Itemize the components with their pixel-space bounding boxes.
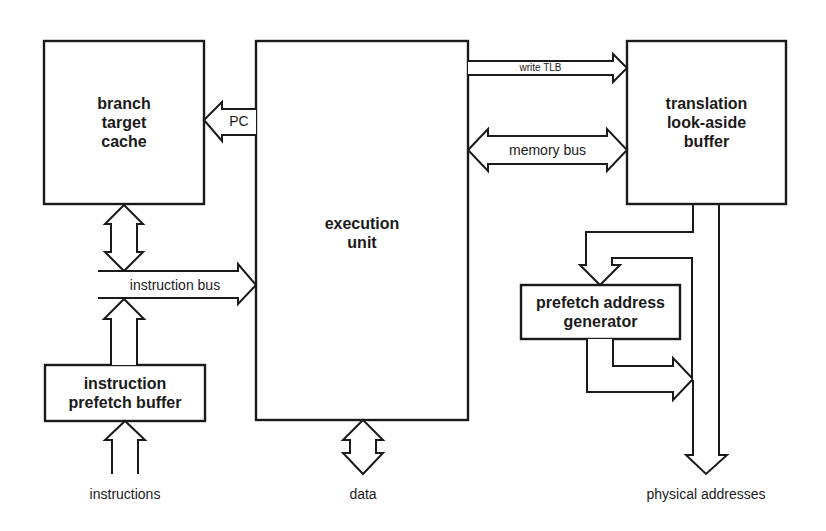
label-line: look-aside [627,113,786,132]
instructions-label: instructions [65,486,185,502]
memory-bus-label: memory bus [488,142,607,158]
execution-unit-label: execution unit [256,214,468,252]
prefetch-to-bus-arrow-icon [104,299,144,365]
prefetch-address-generator-label: prefetch address generator [521,293,680,331]
label-line: cache [44,132,204,151]
instruction-bus-label: instruction bus [112,277,238,293]
physical-addresses-label: physical addresses [616,486,796,502]
branch-target-cache-label: branch target cache [44,94,204,151]
label-line: prefetch buffer [45,393,205,412]
tlb-label: translation look-aside buffer [627,94,786,151]
label-line: translation [627,94,786,113]
label-line: prefetch address [521,293,680,312]
pc-label: PC [222,113,256,129]
label-line: target [44,113,204,132]
label-line: generator [521,312,680,331]
cache-bus-double-arrow-icon [105,205,143,271]
data-label: data [323,486,403,502]
diagram-canvas [0,0,826,531]
instructions-input-arrow-icon [105,421,145,474]
label-line: buffer [627,132,786,151]
data-double-arrow-icon [343,420,383,474]
label-line: execution [256,214,468,233]
label-line: instruction [45,374,205,393]
label-line: branch [44,94,204,113]
write-tlb-label: write TLB [468,62,613,73]
label-line: unit [256,233,468,252]
instruction-prefetch-buffer-label: instruction prefetch buffer [45,374,205,412]
generator-output-arrow-icon [587,339,693,400]
